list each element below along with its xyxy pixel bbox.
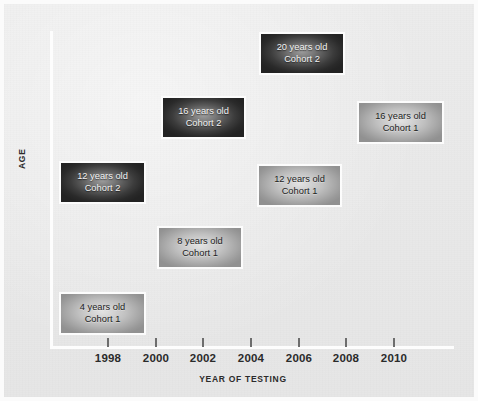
x-axis-tick-mark [202,338,204,347]
cell-cohort-label: Cohort 1 [282,186,318,198]
cell-cohort-label: Cohort 1 [383,123,419,135]
cell-age-label: 12 years old [274,174,325,186]
cell-4-cohort1: 4 years oldCohort 1 [59,292,146,335]
y-axis-label: AGE [17,148,27,169]
x-axis-label: YEAR OF TESTING [4,374,478,384]
x-axis-tick-mark [250,338,252,347]
cell-age-label: 12 years old [77,171,128,183]
x-axis-tick-mark [155,338,157,347]
x-axis-tick-mark [393,338,395,347]
cell-8-cohort1: 8 years oldCohort 1 [157,226,243,269]
cell-age-label: 16 years old [375,111,426,123]
cell-age-label: 20 years old [277,42,328,54]
cell-12-cohort2: 12 years oldCohort 2 [59,161,146,204]
cell-cohort-label: Cohort 2 [186,118,222,130]
cell-age-label: 16 years old [178,106,229,118]
x-axis-tick-label: 2010 [364,352,424,364]
cell-cohort-label: Cohort 1 [182,248,218,260]
cell-20-cohort2: 20 years oldCohort 2 [259,32,345,75]
cell-age-label: 4 years old [80,302,125,314]
x-axis-tick-mark [345,338,347,347]
cell-16-cohort1: 16 years oldCohort 1 [357,101,444,144]
x-axis-tick-mark [107,338,109,347]
y-axis-line [50,31,53,349]
cell-16-cohort2: 16 years oldCohort 2 [161,96,246,139]
cell-cohort-label: Cohort 2 [284,54,320,66]
cell-12-cohort1: 12 years oldCohort 1 [257,164,342,207]
chart-figure: 1998200020022004200620082010 AGE YEAR OF… [0,0,478,401]
cell-cohort-label: Cohort 2 [85,183,121,195]
cell-age-label: 8 years old [177,236,222,248]
x-axis-tick-mark [298,338,300,347]
cell-cohort-label: Cohort 1 [85,314,121,326]
